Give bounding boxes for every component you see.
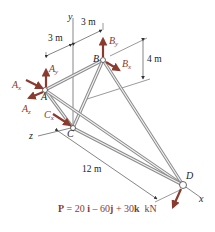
- reaction-label-Az: Az: [22, 104, 31, 116]
- joint-label-A: A: [41, 92, 47, 102]
- reaction-label-Bx: Bx: [122, 59, 131, 71]
- joint-label-B: B: [93, 54, 99, 64]
- joint-B: [101, 58, 106, 63]
- reaction-label-Cx: Cx: [44, 110, 54, 122]
- dimension-4m: 4 m: [147, 55, 162, 65]
- load-equation: P = 20 i – 60j + 30k kN: [58, 203, 157, 214]
- y-axis-label: y: [68, 12, 72, 22]
- reaction-label-Ay: Ay: [49, 64, 58, 76]
- joint-label-C: C: [67, 129, 74, 139]
- z-axis-label: z: [29, 131, 33, 141]
- dimension-3m-left: 3 m: [48, 34, 63, 44]
- dimension-3m-right: 3 m: [81, 18, 96, 28]
- truss-drawing: [0, 0, 215, 232]
- arrow-Ax: [26, 80, 42, 88]
- reaction-label-Ax: Ax: [12, 80, 21, 92]
- reaction-label-By: By: [109, 36, 118, 48]
- joint-D: [180, 182, 187, 189]
- dimension-12m: 12 m: [82, 165, 101, 175]
- member-AD: [45, 90, 183, 185]
- x-axis-label: x: [199, 194, 203, 204]
- truss-diagram: y z x A B C D Ay Ax Az By Bx Cx 3 m 3 m …: [0, 0, 215, 232]
- joint-label-D: D: [186, 171, 193, 181]
